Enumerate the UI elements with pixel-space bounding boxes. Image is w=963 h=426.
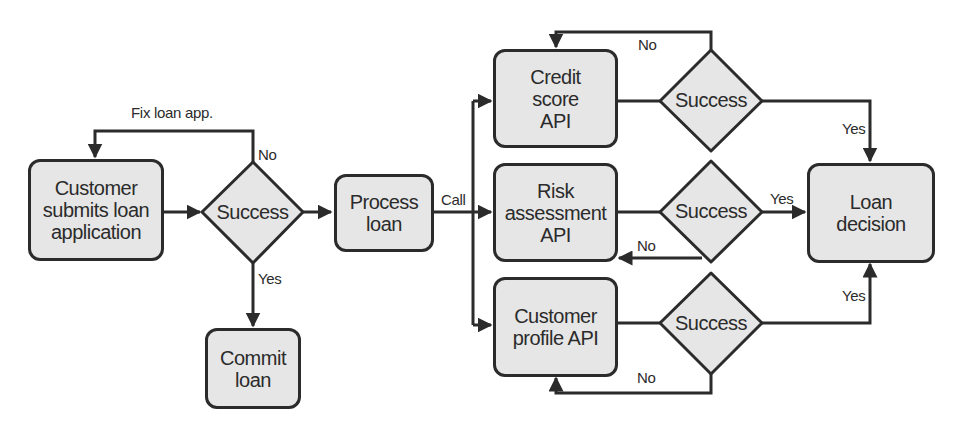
- edge-label-risk-no: No: [637, 237, 656, 254]
- node-line: application: [43, 221, 149, 243]
- node-line: assessment: [505, 202, 607, 224]
- node-loan-decision: Loan decision: [807, 163, 935, 263]
- node-line: submits loan: [43, 199, 149, 221]
- node-line: loan: [350, 213, 419, 235]
- node-line: Customer: [513, 305, 599, 327]
- node-commit-loan: Commit loan: [205, 328, 301, 409]
- edge-label-credit-yes: Yes: [842, 120, 866, 137]
- edge-label-credit-no: No: [638, 36, 657, 53]
- edge-label-risk-yes: Yes: [770, 190, 794, 207]
- node-line: Process: [350, 191, 419, 213]
- decision-success-credit-label: Success: [660, 50, 762, 151]
- edge-label-main-no: No: [258, 146, 277, 163]
- node-customer-submits-loan-application: Customer submits loan application: [28, 159, 164, 261]
- node-risk-assessment-api: Risk assessment API: [493, 163, 618, 262]
- node-credit-score-api: Credit score API: [493, 49, 618, 148]
- node-line: score: [530, 88, 580, 110]
- edge-credit-no-loop: [556, 32, 711, 50]
- node-line: decision: [836, 213, 905, 235]
- edge-label-profile-yes: Yes: [842, 287, 866, 304]
- edge-label-profile-no: No: [637, 369, 656, 386]
- node-line: profile API: [513, 327, 599, 349]
- node-line: API: [505, 224, 607, 246]
- node-line: Risk: [505, 180, 607, 202]
- decision-success-profile-label: Success: [660, 273, 762, 374]
- edge-success-no-loop: [95, 131, 253, 162]
- edge-label-call: Call: [441, 191, 466, 208]
- node-customer-profile-api: Customer profile API: [493, 277, 618, 377]
- node-line: API: [530, 110, 580, 132]
- node-process-loan: Process loan: [334, 174, 434, 252]
- node-line: Loan: [836, 191, 905, 213]
- node-line: Customer: [43, 177, 149, 199]
- node-line: Commit: [220, 347, 286, 369]
- decision-success-main-label: Success: [202, 162, 303, 263]
- edge-label-fix-loan-app: Fix loan app.: [131, 104, 213, 121]
- decision-success-risk-label: Success: [660, 161, 762, 262]
- node-line: Credit: [530, 66, 580, 88]
- edge-label-main-yes: Yes: [258, 270, 282, 287]
- node-line: loan: [220, 369, 286, 391]
